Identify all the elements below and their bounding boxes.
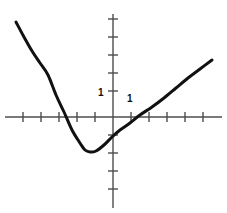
parabola-curve bbox=[16, 22, 212, 152]
y-axis-group bbox=[108, 14, 118, 208]
y-axis-tick-label-one: 1 bbox=[98, 88, 104, 98]
x-axis-tick-label-one: 1 bbox=[127, 94, 133, 104]
parabola-graph-figure: 1 1 bbox=[0, 0, 227, 213]
plot-area bbox=[0, 0, 227, 213]
